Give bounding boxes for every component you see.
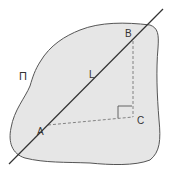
plane-region <box>10 23 160 164</box>
geometry-diagram: Π L A B C <box>0 0 177 172</box>
point-label-b: B <box>125 28 132 39</box>
point-label-a: A <box>37 126 44 137</box>
point-label-c: C <box>137 115 144 126</box>
plane-label: Π <box>19 70 27 82</box>
line-label: L <box>89 69 95 80</box>
